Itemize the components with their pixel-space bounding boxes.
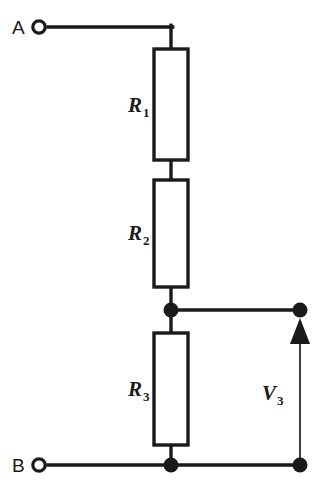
voltage-v3-label: V3 [262, 381, 284, 408]
resistor-r3-body [154, 333, 188, 445]
resistor-r3-label-base: R [127, 377, 142, 401]
resistor-group [154, 49, 188, 445]
terminal-a-label: A [12, 17, 25, 38]
resistor-r1-label-base: R [127, 93, 142, 117]
resistor-r2-label: R2 [127, 221, 150, 248]
voltage-arrow-v3 [290, 318, 310, 463]
resistor-r1-label: R1 [127, 93, 150, 120]
voltage-arrow-head-icon [290, 318, 310, 344]
resistor-r1-label-subscript: 1 [143, 105, 150, 120]
terminal-output-bottom-filled-dot-icon [293, 458, 308, 473]
terminal-b-open-circle-icon [33, 459, 45, 471]
terminal-a-open-circle-icon [33, 21, 45, 33]
resistor-r2-label-base: R [127, 221, 142, 245]
resistor-r1-body [154, 49, 188, 160]
terminal-output-top-filled-dot-icon [293, 303, 308, 318]
circuit-diagram: A B R1 R2 R3 V3 [0, 0, 321, 496]
junction-dot-mid-node [164, 303, 179, 318]
resistor-r3-label: R3 [127, 377, 150, 404]
resistor-r2-label-subscript: 2 [143, 233, 150, 248]
voltage-v3-label-subscript: 3 [277, 393, 284, 408]
voltage-v3-label-base: V [262, 381, 278, 405]
resistor-r3-label-subscript: 3 [143, 389, 150, 404]
circuit-canvas: A B R1 R2 R3 V3 [0, 0, 321, 496]
resistor-r2-body [154, 180, 188, 287]
terminal-b-label: B [12, 455, 25, 476]
label-group: A B R1 R2 R3 V3 [12, 17, 284, 476]
junction-dot-bottom-node [164, 458, 179, 473]
